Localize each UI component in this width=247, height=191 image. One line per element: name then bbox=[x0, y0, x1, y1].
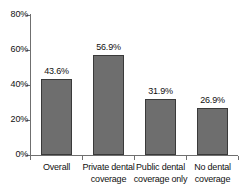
x-tick-mark-1 bbox=[82, 156, 83, 160]
x-category-label-no-dental-coverage: No dental coverage bbox=[185, 161, 240, 185]
y-tick-label-60: 60% bbox=[2, 45, 28, 54]
x-category-label-overall: Overall bbox=[29, 161, 84, 173]
x-tick-mark-4 bbox=[238, 156, 239, 160]
x-category-label-public-dental-coverage-only: Public dental coverage only bbox=[133, 161, 188, 185]
x-tick-mark-0 bbox=[30, 156, 31, 160]
x-category-label-overall-line1: Overall bbox=[29, 161, 84, 173]
x-category-label-private-dental-coverage: Private dental coverage bbox=[81, 161, 136, 185]
bar-chart: 80% 60% 40% 20% 0% 43.6% 56.9% 31.9% 26.… bbox=[0, 0, 247, 191]
x-tick-mark-2 bbox=[134, 156, 135, 160]
bar-value-no-dental-coverage: 26.9% bbox=[187, 95, 238, 105]
y-tick-label-20: 20% bbox=[2, 115, 28, 124]
y-tick-label-80: 80% bbox=[2, 10, 28, 19]
bar-no-dental-coverage bbox=[197, 108, 228, 155]
x-category-label-private-dental-coverage-line2: coverage bbox=[81, 173, 136, 185]
y-tick-label-0: 0% bbox=[2, 150, 28, 159]
x-category-label-no-dental-coverage-line1: No dental bbox=[185, 161, 240, 173]
x-tick-mark-3 bbox=[186, 156, 187, 160]
y-tick-label-40: 40% bbox=[2, 80, 28, 89]
bar-value-overall: 43.6% bbox=[31, 66, 82, 76]
bar-overall bbox=[41, 79, 72, 155]
bar-private-dental-coverage bbox=[93, 55, 124, 155]
bar-value-private-dental-coverage: 56.9% bbox=[83, 42, 134, 52]
x-category-label-private-dental-coverage-line1: Private dental bbox=[81, 161, 136, 173]
x-category-label-public-dental-coverage-only-line2: coverage only bbox=[133, 173, 188, 185]
x-category-label-public-dental-coverage-only-line1: Public dental bbox=[133, 161, 188, 173]
y-axis-line bbox=[30, 14, 31, 156]
x-category-label-no-dental-coverage-line2: coverage bbox=[185, 173, 240, 185]
bar-public-dental-coverage-only bbox=[145, 99, 176, 155]
bar-value-public-dental-coverage-only: 31.9% bbox=[135, 86, 186, 96]
